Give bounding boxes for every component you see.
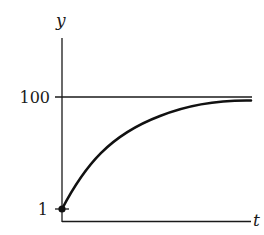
tick-label-100: 100 (19, 88, 50, 107)
solution-curve (62, 100, 251, 209)
y-axis-label: y (55, 10, 66, 30)
x-axis-label: t (253, 210, 260, 230)
initial-point-dot (58, 205, 65, 212)
growth-curve-diagram: y t 100 1 (0, 0, 264, 235)
tick-label-1: 1 (38, 200, 48, 219)
